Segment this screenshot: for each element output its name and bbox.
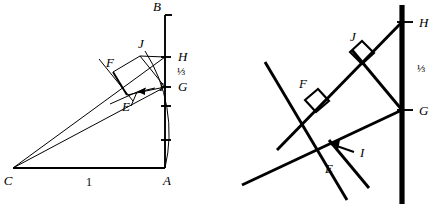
ray-c-h bbox=[13, 57, 165, 168]
line-e-g bbox=[242, 110, 402, 185]
label-g: G bbox=[419, 103, 429, 118]
label-h: H bbox=[177, 49, 188, 64]
label-b: B bbox=[153, 0, 161, 14]
ray-c-g bbox=[13, 87, 165, 168]
overview-diagram-svg: B H G J F I I E C A 1 ⅓ bbox=[0, 0, 218, 219]
segment-f-j bbox=[113, 56, 140, 72]
geometric-figure: B H G J F I I E C A 1 ⅓ bbox=[0, 0, 435, 219]
label-e: E bbox=[121, 99, 130, 114]
label-f: F bbox=[105, 55, 115, 70]
label-f: F bbox=[298, 76, 308, 91]
label-i: I bbox=[359, 145, 365, 160]
label-fraction-third: ⅓ bbox=[177, 65, 185, 77]
detail-diagram-panel: H J F G I E ⅓ bbox=[217, 0, 435, 219]
detail-diagram-svg: H J F G I E ⅓ bbox=[217, 0, 435, 219]
label-base-length: 1 bbox=[86, 175, 92, 189]
label-e: E bbox=[324, 161, 333, 176]
label-g: G bbox=[178, 79, 188, 94]
line-through-f bbox=[99, 59, 133, 101]
label-j: J bbox=[350, 29, 357, 44]
segment-j-g bbox=[352, 50, 402, 110]
label-fraction-third: ⅓ bbox=[417, 62, 425, 74]
arrow-to-i-head bbox=[138, 88, 145, 95]
label-h: H bbox=[418, 15, 429, 30]
label-j: J bbox=[138, 36, 145, 51]
label-i-visible: I bbox=[158, 79, 164, 94]
overview-diagram-panel: B H G J F I I E C A 1 ⅓ bbox=[0, 0, 218, 219]
label-a: A bbox=[162, 173, 171, 188]
label-c: C bbox=[4, 173, 13, 188]
